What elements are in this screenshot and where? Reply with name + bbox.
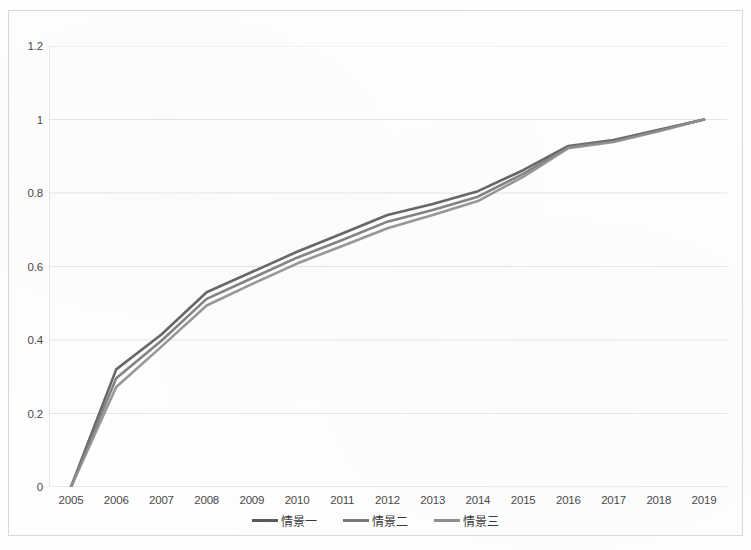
y-tick-label: 0.4	[13, 334, 43, 346]
legend-label: 情景二	[372, 512, 408, 529]
legend-line-swatch-icon	[434, 519, 460, 522]
legend-item-2[interactable]: 情景二	[343, 512, 408, 529]
plot-area	[49, 46, 727, 487]
y-tick-label: 0.8	[13, 187, 43, 199]
y-tick-label: 0.2	[13, 408, 43, 420]
legend-item-1[interactable]: 情景一	[252, 512, 317, 529]
legend-label: 情景一	[281, 512, 317, 529]
line-chart-svg	[49, 46, 727, 487]
chart-frame: 00.20.40.60.811.2 2005200620072008200920…	[8, 10, 743, 536]
x-tick-label: 2009	[230, 494, 274, 506]
y-tick-label: 0.6	[13, 261, 43, 273]
x-tick-label: 2007	[139, 494, 183, 506]
chart-legend: 情景一情景二情景三	[0, 512, 751, 529]
x-tick-label: 2013	[411, 494, 455, 506]
x-tick-label: 2006	[94, 494, 138, 506]
legend-label: 情景三	[463, 512, 499, 529]
gridlines-group	[49, 46, 727, 487]
legend-line-swatch-icon	[343, 519, 369, 522]
series-paths-group	[71, 120, 704, 488]
x-tick-label: 2005	[49, 494, 93, 506]
x-tick-label: 2017	[592, 494, 636, 506]
series-line-3	[71, 120, 704, 488]
y-tick-label: 1	[13, 114, 43, 126]
x-tick-label: 2015	[501, 494, 545, 506]
legend-item-3[interactable]: 情景三	[434, 512, 499, 529]
series-line-1	[71, 120, 704, 488]
y-tick-label: 1.2	[13, 40, 43, 52]
chart-page: 00.20.40.60.811.2 2005200620072008200920…	[0, 0, 751, 550]
legend-line-swatch-icon	[252, 519, 278, 522]
x-tick-label: 2010	[275, 494, 319, 506]
x-tick-label: 2014	[456, 494, 500, 506]
series-line-2	[71, 120, 704, 488]
x-tick-label: 2012	[366, 494, 410, 506]
x-tick-label: 2019	[682, 494, 726, 506]
x-tick-label: 2008	[185, 494, 229, 506]
x-tick-label: 2011	[320, 494, 364, 506]
y-tick-label: 0	[13, 481, 43, 493]
x-tick-label: 2016	[546, 494, 590, 506]
x-tick-label: 2018	[637, 494, 681, 506]
